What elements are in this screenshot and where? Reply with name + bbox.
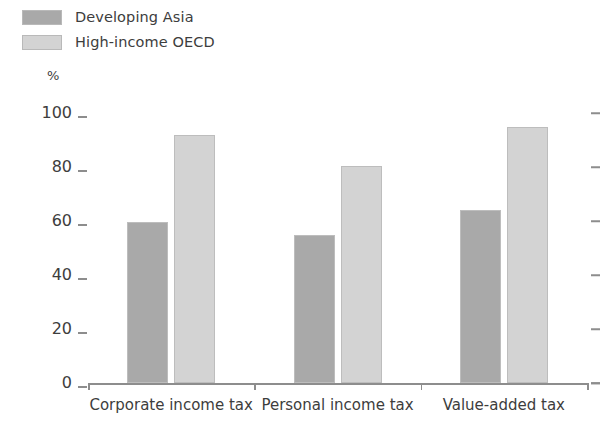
bar bbox=[507, 127, 548, 384]
y-axis-tick-mark bbox=[78, 170, 87, 172]
legend-item-developing-asia: Developing Asia bbox=[22, 6, 215, 28]
legend-item-high-income-oecd: High-income OECD bbox=[22, 31, 215, 53]
x-axis-tick-mark bbox=[88, 383, 90, 390]
bar bbox=[127, 222, 168, 383]
y-axis-tick-mark-right bbox=[591, 274, 600, 276]
y-axis-tick: 40 bbox=[0, 267, 87, 283]
y-axis-tick-label: 100 bbox=[41, 105, 72, 121]
x-axis-tick-mark bbox=[254, 383, 256, 390]
x-axis-baseline bbox=[88, 383, 587, 385]
y-axis-tick: 60 bbox=[0, 213, 87, 229]
y-axis-tick: 100 bbox=[0, 105, 87, 121]
chart-legend: Developing Asia High-income OECD bbox=[22, 6, 215, 56]
y-axis-tick-mark-right bbox=[591, 220, 600, 222]
x-axis-end-tick-mark bbox=[591, 382, 600, 384]
legend-label-developing-asia: Developing Asia bbox=[75, 10, 194, 25]
y-axis-tick: 0 bbox=[0, 375, 87, 391]
y-axis-tick-mark bbox=[78, 278, 87, 280]
bar-chart: Developing Asia High-income OECD % 10080… bbox=[0, 0, 616, 436]
y-axis-tick-label: 80 bbox=[52, 159, 72, 175]
legend-label-high-income-oecd: High-income OECD bbox=[75, 35, 215, 50]
y-axis-tick-label: 60 bbox=[52, 213, 72, 229]
legend-swatch-developing-asia bbox=[22, 10, 62, 25]
x-axis-category-label: Personal income tax bbox=[254, 396, 420, 414]
y-axis-tick-mark bbox=[78, 116, 87, 118]
y-axis-tick-label: 20 bbox=[52, 321, 72, 337]
y-axis-tick-mark bbox=[78, 224, 87, 226]
y-axis-tick-mark bbox=[78, 332, 87, 334]
x-axis-tick-mark bbox=[421, 383, 423, 390]
bar bbox=[460, 210, 501, 383]
y-axis-unit-label: % bbox=[47, 68, 59, 83]
y-axis-tick-mark bbox=[78, 386, 87, 388]
bar bbox=[294, 235, 335, 384]
y-axis-tick-label: 0 bbox=[62, 375, 72, 391]
y-axis-tick-label: 40 bbox=[52, 267, 72, 283]
x-axis-tick-mark bbox=[587, 383, 589, 390]
bar bbox=[174, 135, 215, 383]
y-axis-tick-mark-right bbox=[591, 328, 600, 330]
x-axis-category-label: Value-added tax bbox=[421, 396, 587, 414]
y-axis-tick-mark-right bbox=[591, 166, 600, 168]
x-axis-category-label: Corporate income tax bbox=[88, 396, 254, 414]
y-axis-tick-mark-right bbox=[591, 112, 600, 114]
plot-area bbox=[88, 113, 587, 383]
y-axis-tick: 20 bbox=[0, 321, 87, 337]
y-axis-tick: 80 bbox=[0, 159, 87, 175]
legend-swatch-high-income-oecd bbox=[22, 35, 62, 50]
bar bbox=[341, 166, 382, 383]
